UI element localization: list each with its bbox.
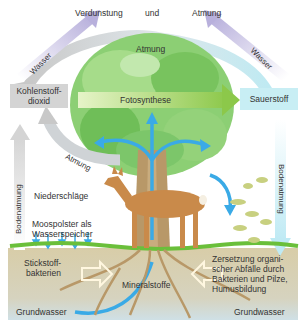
co2-line1: Kohlenstoff- bbox=[16, 86, 61, 96]
label-atmung-top: Atmung bbox=[192, 8, 221, 18]
label-mineralstoffe: Mineralstoffe bbox=[122, 280, 171, 290]
label-niederschlaege: Niederschläge bbox=[34, 191, 88, 201]
label-stickstoff-1: Stickstoff- bbox=[24, 258, 61, 268]
label-atmung-arc: Atmung bbox=[136, 44, 165, 54]
label-zersetzung-3: Bakterien und Pilze, bbox=[212, 274, 288, 284]
label-moospolster-2: Wasserspeicher bbox=[32, 229, 93, 239]
label-und: und bbox=[145, 8, 159, 18]
label-bodenatmung-left: Bodenatmung bbox=[14, 184, 23, 234]
co2-line2: dioxid bbox=[28, 96, 50, 106]
label-moospolster-1: Moospolster als bbox=[32, 219, 92, 229]
falling-leaves bbox=[230, 177, 272, 243]
label-zersetzung-2: scher Abfälle durch bbox=[212, 264, 284, 274]
co2-box: Kohlenstoff- dioxid bbox=[10, 84, 68, 108]
o2-box: Sauerstoff bbox=[240, 88, 298, 110]
label-zersetzung-4: Humusbildung bbox=[212, 284, 266, 294]
label-fotosynthese: Fotosynthese bbox=[120, 95, 171, 105]
label-bodenatmung-right: Bodenatmung bbox=[277, 164, 286, 214]
label-verdunstung: Verdunstung bbox=[75, 8, 123, 18]
label-stickstoff-2: bakterien bbox=[26, 268, 61, 278]
label-grundwasser-right: Grundwasser bbox=[234, 307, 285, 317]
label-grundwasser-left: Grundwasser bbox=[16, 307, 67, 317]
label-zersetzung-1: Zersetzung organi- bbox=[212, 254, 283, 264]
